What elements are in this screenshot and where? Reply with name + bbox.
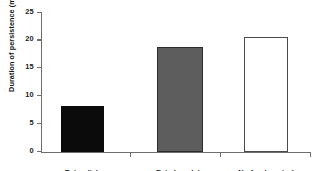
y-axis-tick-25: 25 <box>37 12 42 13</box>
y-axis-tick-label-10: 10 <box>25 90 33 99</box>
x-axis-tick-sep-1 <box>130 153 131 157</box>
y-axis-tick-label-0: 0 <box>29 146 33 155</box>
y-axis-title: Duration of persistence (min) <box>7 0 16 106</box>
x-axis-label-eat-chocolate: Eat chocolate <box>156 168 204 171</box>
y-axis-tick-15: 15 <box>37 67 42 68</box>
x-axis-tick-sep-2 <box>220 153 221 157</box>
y-axis-tick-label-20: 20 <box>25 34 33 43</box>
x-axis-label-eat-radish: Eat radish <box>65 168 101 171</box>
bar-chart: Duration of persistence (min) 0 5 10 15 … <box>0 0 322 171</box>
x-axis-tick-end <box>310 153 311 157</box>
plot-area: 0 5 10 15 20 25 Eat radish Eat chocolate… <box>41 12 311 153</box>
x-axis-label-no-food-control: No-food control <box>238 168 293 171</box>
y-axis-line <box>41 12 42 153</box>
y-axis-tick-label-15: 15 <box>25 62 33 71</box>
y-axis-tick-5: 5 <box>37 123 42 124</box>
bar-eat-chocolate <box>157 47 203 151</box>
x-axis-line <box>41 152 311 153</box>
y-axis-tick-10: 10 <box>37 95 42 96</box>
bar-no-food-control <box>244 37 288 152</box>
y-axis-tick-0: 0 <box>37 151 42 152</box>
y-axis-tick-label-25: 25 <box>25 7 33 16</box>
y-axis-tick-label-5: 5 <box>29 118 33 127</box>
y-axis-tick-20: 20 <box>37 39 42 40</box>
bar-eat-radish <box>61 106 104 152</box>
